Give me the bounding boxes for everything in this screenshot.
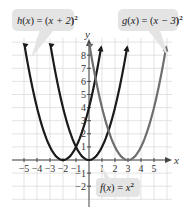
x-tick-label: 5 xyxy=(152,163,157,174)
curve-arrow-icon xyxy=(97,45,103,51)
x-axis-label: x xyxy=(173,154,179,166)
callout-f: f(x) = x2 xyxy=(96,164,140,197)
parabola-translation-chart: −5−4−3−2−112345−2−112345678 h(x) = (x + … xyxy=(0,0,185,207)
callout-h-label: h(x) = (x + 2)2 xyxy=(17,14,78,27)
y-tick-label: −2 xyxy=(75,181,86,192)
x-tick-label: 2 xyxy=(113,163,118,174)
y-tick-label: 6 xyxy=(81,76,86,87)
curves xyxy=(23,43,169,160)
x-tick-label: 3 xyxy=(126,163,131,174)
callout-h: h(x) = (x + 2)2 xyxy=(12,9,78,58)
curve-arrow-icon xyxy=(123,45,129,51)
y-tick-label: 5 xyxy=(81,89,86,100)
x-tick-label: −5 xyxy=(19,163,30,174)
y-tick-label: 4 xyxy=(81,102,86,113)
callout-g-label: g(x) = (x − 3)2 xyxy=(122,14,183,27)
y-tick-label: 1 xyxy=(81,141,86,152)
x-tick-label: 4 xyxy=(139,163,144,174)
y-tick-label: 8 xyxy=(81,50,86,61)
y-axis-label: y xyxy=(84,28,90,40)
y-tick-label: 7 xyxy=(81,63,86,74)
callout-f-label: f(x) = x2 xyxy=(100,181,134,194)
x-tick-label: −2 xyxy=(58,163,69,174)
x-tick-label: −3 xyxy=(45,163,56,174)
y-tick-label: −1 xyxy=(75,168,86,179)
x-tick-label: −4 xyxy=(32,163,43,174)
